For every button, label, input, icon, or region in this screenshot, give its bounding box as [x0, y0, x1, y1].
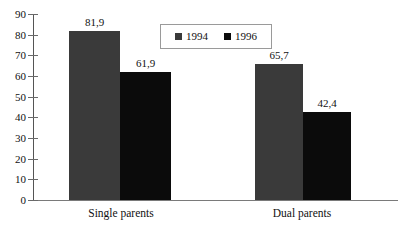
- bar-single-parents-1994: [69, 31, 120, 200]
- bar-dual-parents-1996: [303, 112, 351, 200]
- legend-label-1996: 1996: [235, 31, 257, 42]
- x-axis-baseline: [33, 200, 398, 201]
- legend-label-1994: 1994: [186, 31, 208, 42]
- bar-single-parents-1996: [120, 72, 171, 200]
- bar-dual-parents-1994: [255, 64, 303, 200]
- legend-entry-1994[interactable]: 1994: [175, 31, 208, 42]
- category-label-dual-parents: Dual parents: [237, 207, 367, 220]
- data-label-single-parents-1994: 81,9: [61, 17, 128, 28]
- legend-swatch-1994-icon: [175, 33, 182, 40]
- y-axis-tick: [28, 200, 38, 201]
- data-label-dual-parents-1994: 65,7: [247, 50, 311, 61]
- legend-entry-1996[interactable]: 1996: [224, 31, 257, 42]
- data-label-dual-parents-1996: 42,4: [295, 98, 359, 109]
- category-label-single-parents: Single parents: [56, 207, 186, 220]
- legend-swatch-1996-icon: [224, 33, 231, 40]
- bar-chart: 9080706050403020100 81,961,965,742,4 Sin…: [0, 0, 403, 234]
- chart-legend: 1994 1996: [160, 24, 272, 49]
- data-label-single-parents-1996: 61,9: [112, 58, 179, 69]
